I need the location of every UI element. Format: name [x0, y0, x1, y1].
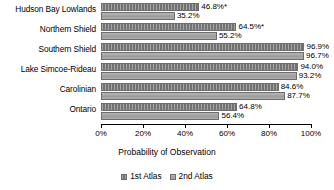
- bar-value-label: 96.9%: [306, 43, 329, 51]
- legend-label: 2nd Atlas: [179, 172, 213, 181]
- bar-value-label: 87.7%: [287, 92, 310, 100]
- bar-second-atlas: [101, 112, 219, 120]
- x-axis-tick: [101, 124, 102, 128]
- bar-first-atlas: [101, 83, 279, 91]
- plot-area: 46.8%*35.2%64.5%*55.2%96.9%96.7%94.0%93.…: [101, 0, 311, 124]
- bar-second-atlas: [101, 92, 285, 100]
- category-label: Southern Shield: [0, 45, 96, 54]
- bar-second-atlas: [101, 32, 217, 40]
- x-axis-tick: [311, 124, 312, 128]
- bar-value-label: 64.8%: [239, 103, 262, 111]
- bar-value-label: 56.4%: [221, 112, 244, 120]
- bar-first-atlas: [101, 23, 236, 31]
- bar-value-label: 55.2%: [219, 32, 242, 40]
- bar-first-atlas: [101, 43, 304, 51]
- x-axis-tick-label: 80%: [255, 129, 283, 138]
- category-label: Carolinian: [0, 85, 96, 94]
- bar-value-label: 64.5%*: [238, 23, 264, 31]
- bar-value-label: 94.0%: [300, 63, 323, 71]
- legend-swatch-icon: [170, 174, 176, 180]
- bar-group: 84.6%87.7%: [101, 83, 311, 100]
- x-axis-tick: [143, 124, 144, 128]
- bar-group: 94.0%93.2%: [101, 63, 311, 80]
- bar-value-label: 84.6%: [281, 83, 304, 91]
- bar-first-atlas: [101, 3, 199, 11]
- category-axis-labels: Hudson Bay Lowlands Northern Shield Sout…: [0, 0, 99, 124]
- x-axis-tick-label: 20%: [129, 129, 157, 138]
- bar-second-atlas: [101, 12, 175, 20]
- category-label: Ontario: [0, 105, 96, 114]
- category-label: Lake Simcoe-Rideau: [0, 65, 96, 74]
- bar-value-label: 46.8%*: [201, 3, 227, 11]
- bar-second-atlas: [101, 52, 304, 60]
- legend-swatch-icon: [121, 174, 127, 180]
- legend-item-1st-atlas: 1st Atlas: [121, 172, 161, 181]
- bar-first-atlas: [101, 103, 237, 111]
- bar-chart: Hudson Bay Lowlands Northern Shield Sout…: [0, 0, 334, 190]
- legend-label: 1st Atlas: [130, 172, 161, 181]
- bar-value-label: 35.2%: [177, 12, 200, 20]
- x-axis-title: Probability of Observation: [0, 147, 334, 157]
- bar-group: 96.9%96.7%: [101, 43, 311, 60]
- category-label: Northern Shield: [0, 25, 96, 34]
- x-axis-line: [101, 124, 311, 125]
- bar-first-atlas: [101, 63, 298, 71]
- category-label: Hudson Bay Lowlands: [0, 5, 96, 14]
- x-axis-tick-label: 100%: [297, 129, 325, 138]
- x-axis-tick-label: 60%: [213, 129, 241, 138]
- x-axis-tick: [269, 124, 270, 128]
- x-axis-tick-label: 0%: [87, 129, 115, 138]
- x-axis-tick: [185, 124, 186, 128]
- bar-value-label: 93.2%: [299, 72, 322, 80]
- bar-group: 46.8%*35.2%: [101, 3, 311, 20]
- bar-group: 64.5%*55.2%: [101, 23, 311, 40]
- bar-value-label: 96.7%: [306, 52, 329, 60]
- bar-group: 64.8%56.4%: [101, 103, 311, 120]
- x-axis-tick-label: 40%: [171, 129, 199, 138]
- x-axis-tick: [227, 124, 228, 128]
- legend-item-2nd-atlas: 2nd Atlas: [170, 172, 213, 181]
- bar-second-atlas: [101, 72, 297, 80]
- legend: 1st Atlas 2nd Atlas: [0, 172, 334, 181]
